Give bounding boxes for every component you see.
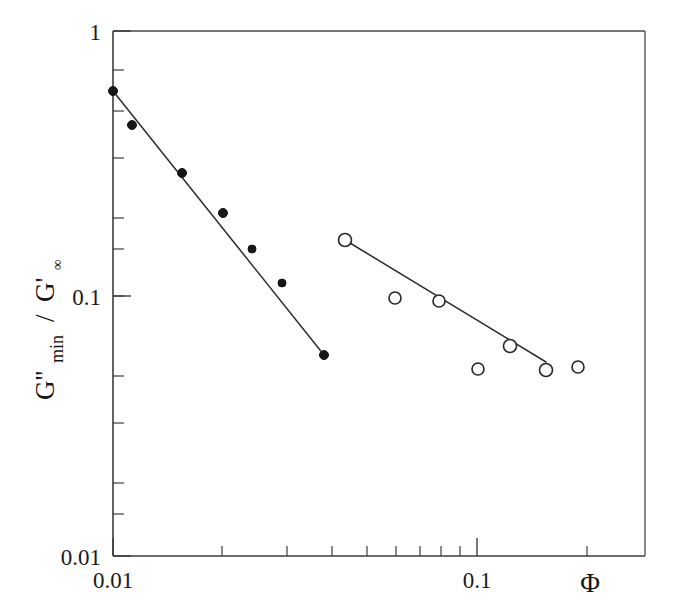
y-axis-label-infinity-subscript: ∞	[49, 259, 65, 270]
y-axis-label-group: G'' min / G' ∞	[30, 259, 67, 400]
data-point-open	[572, 361, 584, 373]
data-point-filled	[128, 121, 137, 130]
y-axis-label-min-subscript: min	[47, 335, 67, 363]
data-point-open	[433, 295, 445, 307]
data-point-filled	[320, 351, 329, 360]
data-point-filled	[248, 245, 256, 253]
x-tick-label-0.01: 0.01	[93, 568, 133, 593]
x-axis-label: Φ	[580, 568, 600, 598]
data-point-filled	[278, 279, 286, 287]
y-axis-label-g-prime: G'	[30, 278, 60, 302]
x-tick-label-0.1: 0.1	[463, 568, 492, 593]
plot-frame	[113, 31, 645, 556]
log-log-scatter-plot: 1 0.1 0.01 0.01 0.1 Φ G'' min / G' ∞	[0, 0, 677, 612]
data-point-open	[504, 340, 517, 353]
y-axis-label-slash: /	[30, 314, 60, 322]
data-point-filled	[109, 87, 118, 96]
data-point-open	[472, 363, 484, 375]
data-point-open	[389, 292, 401, 304]
fit-line-filled	[113, 91, 324, 355]
x-axis-ticks	[113, 538, 587, 556]
series-filled-circles	[109, 87, 329, 360]
data-point-filled	[219, 209, 228, 218]
y-tick-label-0.1: 0.1	[72, 285, 101, 310]
figure-container: 1 0.1 0.01 0.01 0.1 Φ G'' min / G' ∞	[0, 0, 677, 612]
series-open-circles	[339, 234, 585, 377]
y-tick-label-0.01: 0.01	[61, 545, 101, 570]
data-point-open	[540, 364, 553, 377]
y-axis-label-g-double-prime: G''	[30, 371, 60, 400]
data-point-filled	[178, 169, 187, 178]
data-point-open	[339, 234, 352, 247]
y-tick-label-1: 1	[90, 20, 102, 45]
